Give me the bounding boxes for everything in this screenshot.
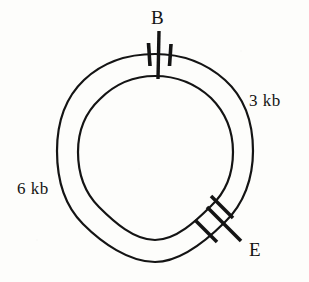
site-label-e: E <box>249 240 261 259</box>
fragment-label-3kb: 3 kb <box>249 92 281 109</box>
inner-circle <box>78 76 233 240</box>
plasmid-diagram <box>0 0 309 282</box>
site-label-b: B <box>151 8 164 27</box>
outer-circle <box>57 54 253 262</box>
restriction-site-e-marks <box>195 196 241 242</box>
site-b-flank-tick-right <box>170 44 172 66</box>
site-b-flank-tick-left <box>149 43 151 66</box>
site-b-radial-tick <box>158 31 159 79</box>
plasmid-figure: B E 3 kb 6 kb <box>0 0 309 282</box>
fragment-label-6kb: 6 kb <box>17 180 49 197</box>
